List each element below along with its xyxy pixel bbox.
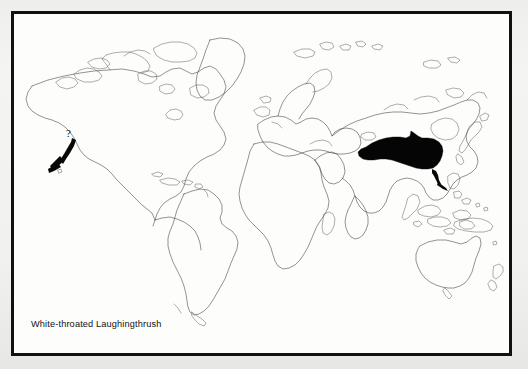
figure-page: ? White-throated Laughingthrush: [0, 0, 528, 369]
greenland-outline: [190, 38, 245, 100]
pacific-islands: [54, 163, 497, 245]
question-mark-annotation: ?: [66, 127, 71, 139]
australia-outline: [416, 236, 481, 299]
north-america-outline: [26, 42, 226, 250]
middle-east-outline: [310, 140, 345, 184]
caribbean-islands: [152, 172, 208, 197]
hawaii-arrow: [48, 138, 76, 173]
map-caption: White-throated Laughingthrush: [31, 319, 162, 329]
range-distribution-shape: [358, 131, 443, 169]
southeast-china-arrow: [432, 169, 448, 191]
africa-outline: [239, 142, 335, 269]
new-zealand-outline: [488, 264, 503, 291]
map-frame: ? White-throated Laughingthrush: [11, 11, 512, 356]
world-map: ?: [14, 14, 509, 353]
japan-outline: [456, 113, 489, 165]
europe-outline: [254, 69, 361, 156]
arctic-islands: [294, 41, 460, 68]
south-america-outline: [168, 189, 238, 326]
